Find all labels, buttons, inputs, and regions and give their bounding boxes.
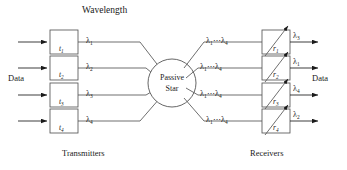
receivers-caption: Receivers — [250, 149, 284, 158]
transmitters-caption: Transmitters — [62, 149, 105, 158]
transmitter-boxes — [50, 30, 78, 133]
broadcast-wavelength-label: λ1⋯λ4 — [200, 83, 222, 99]
transmitter-wavelength-label: λ4 — [86, 109, 93, 125]
receiver-label: r2 — [273, 64, 279, 80]
receiver-label: r3 — [273, 91, 279, 107]
transmitter-wavelength-label: λ1 — [86, 30, 93, 46]
receiver-output-wavelength-label: λ4 — [293, 78, 300, 94]
receiver-output-wavelength-label: λ3 — [293, 25, 300, 41]
hub-label-line2: Star — [155, 85, 189, 93]
transmitter-label: t2 — [59, 64, 64, 80]
broadcast-wavelength-label: λ1⋯λ4 — [206, 109, 228, 125]
broadcast-wavelength-label: λ1⋯λ4 — [200, 56, 222, 72]
transmitter-label: t1 — [59, 38, 64, 54]
figure-title: Wavelength — [82, 6, 127, 16]
transmitter-label: t3 — [59, 91, 64, 107]
hub-label-line1: Passive — [155, 74, 189, 82]
transmitter-label: t4 — [59, 117, 64, 133]
passive-star-network-diagram: Wavelength Data Data Transmitters Receiv… — [0, 0, 347, 170]
transmitter-wavelength-label: λ3 — [86, 83, 93, 99]
receiver-label: r1 — [273, 38, 279, 54]
receiver-output-wavelength-label: λ2 — [293, 104, 300, 120]
receiver-label: r4 — [273, 117, 279, 133]
right-data-label: Data — [312, 74, 328, 83]
left-data-label: Data — [8, 74, 24, 83]
passive-star-hub — [148, 59, 196, 107]
broadcast-wavelength-label: λ1⋯λ4 — [206, 30, 228, 46]
transmitter-wavelength-label: λ2 — [86, 56, 93, 72]
receiver-output-wavelength-label: λ1 — [293, 51, 300, 67]
